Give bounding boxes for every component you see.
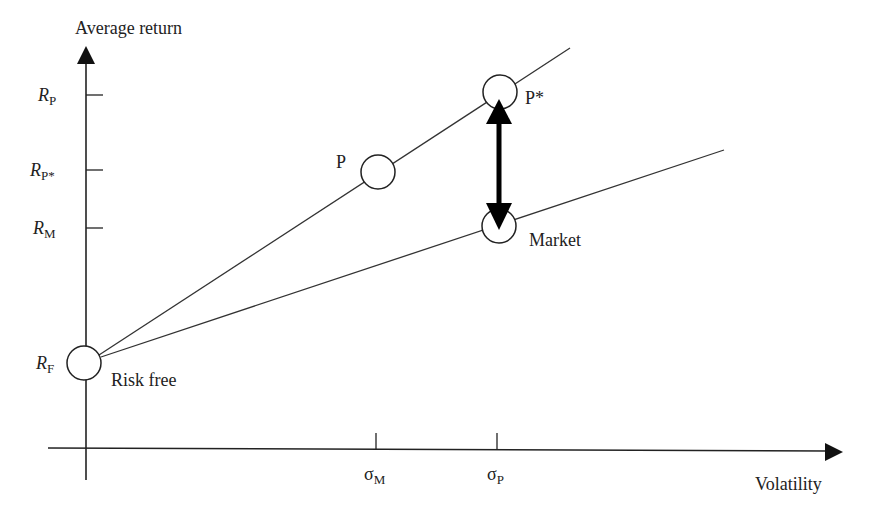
y-axis-arrow-icon xyxy=(77,46,95,64)
alpha-double-arrow-icon xyxy=(486,99,512,230)
risk-return-diagram: Average return RP RP* RM RF Volatility σ… xyxy=(0,0,873,521)
y-tick-label-rp: RP xyxy=(37,85,56,108)
point-risk-free xyxy=(67,346,101,380)
y-tick-label-rm: RM xyxy=(32,218,56,241)
point-p xyxy=(361,155,395,189)
label-market: Market xyxy=(529,230,581,250)
x-tick-label-sigma-m: σM xyxy=(364,464,386,487)
y-axis: Average return xyxy=(75,18,182,480)
x-tick-label-sigma-p: σP xyxy=(487,464,504,487)
x-axis-title: Volatility xyxy=(755,474,822,494)
capital-market-line xyxy=(101,150,724,357)
x-axis: Volatility xyxy=(48,443,843,494)
y-tick-label-rf: RF xyxy=(35,353,54,376)
return-lines xyxy=(99,48,724,357)
label-risk-free: Risk free xyxy=(111,370,176,390)
label-p-star: P* xyxy=(525,88,544,108)
y-axis-title: Average return xyxy=(75,18,182,38)
portfolio-points xyxy=(67,75,517,380)
x-ticks: σM σP xyxy=(364,433,504,487)
y-ticks: RP RP* RM RF xyxy=(29,85,103,376)
x-axis-arrow-icon xyxy=(825,443,843,461)
y-tick-label-rpstar: RP* xyxy=(29,160,55,183)
label-p: P xyxy=(336,152,346,172)
